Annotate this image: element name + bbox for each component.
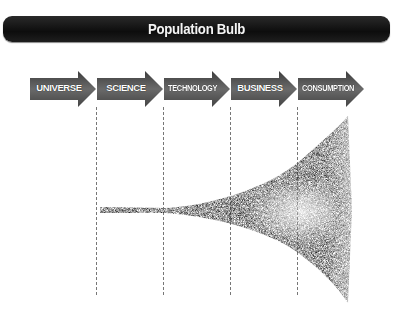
stage-arrow-business: BUSINESS — [231, 71, 297, 107]
stage-label: TECHNOLOGY — [168, 82, 219, 93]
title-bar: Population Bulb — [3, 16, 390, 42]
diagram-title: Population Bulb — [26, 20, 367, 37]
stage-label: UNIVERSE — [33, 82, 85, 93]
stage-arrow-technology: TECHNOLOGY — [164, 71, 230, 107]
stage-arrow-universe: UNIVERSE — [30, 71, 96, 107]
stage-label: BUSINESS — [234, 82, 286, 93]
population-bulb-shape — [96, 110, 356, 310]
stage-arrow-science: SCIENCE — [97, 71, 163, 107]
stage-arrow-consumption: CONSUMPTION — [298, 71, 364, 107]
stage-label: CONSUMPTION — [302, 82, 353, 93]
stage-label: SCIENCE — [100, 82, 152, 93]
